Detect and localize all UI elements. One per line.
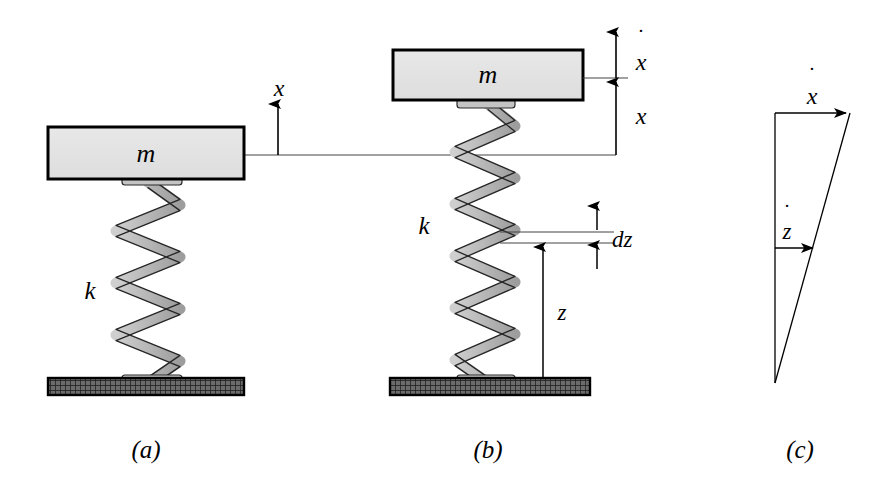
caption-a: (a) [131,436,160,464]
height-label-z: z [557,300,567,325]
diagram-canvas: m k x (a) m k [0,0,886,489]
velocity-vector-xdot-dot: ˙ [808,62,815,87]
velocity-label-b-dot: ˙ [637,24,644,49]
displacement-label-b: x [635,103,647,129]
velocity-label-b: x [635,49,647,75]
panel-b: m k x ˙ x dz z [390,24,647,464]
velocity-vector-zdot-dot: ˙ [784,200,791,224]
displacement-label-a: x [273,75,285,101]
ground-base-b [390,378,590,395]
caption-c: (c) [786,436,814,464]
panel-c: x ˙ z ˙ (c) [775,62,850,464]
figure-root: m k x (a) m k [0,0,886,489]
panel-a: m k x (a) [48,75,616,464]
spring-constant-label-b: k [418,212,430,239]
velocity-label-b-text: x [635,49,647,75]
dz-label: dz [612,227,633,252]
spring-constant-label-a: k [84,277,96,304]
caption-b: (b) [473,436,502,464]
ground-base-a [48,378,244,395]
spring-a [116,176,180,388]
mass-label-b: m [479,60,498,89]
mass-label-a: m [137,139,156,168]
